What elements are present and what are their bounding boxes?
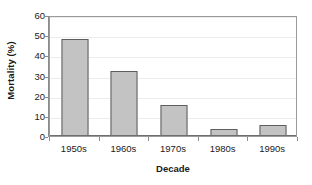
- y-axis-tick-label: 60: [20, 11, 45, 21]
- x-axis-tick-mark: [99, 137, 100, 141]
- x-axis-baseline: [50, 135, 296, 136]
- bar-slot: [149, 17, 199, 136]
- y-axis-title: Mortality (%): [0, 0, 20, 140]
- y-axis-tick-label: 0: [20, 132, 45, 142]
- x-axis-tick-mark: [148, 137, 149, 141]
- x-axis-tick-label: 1950s: [49, 143, 99, 154]
- x-axis-tick-label: 1960s: [99, 143, 149, 154]
- y-axis-tick-label: 40: [20, 51, 45, 61]
- y-axis-tick-mark: [44, 137, 48, 138]
- y-axis-tick-label: 20: [20, 92, 45, 102]
- y-axis-tick-mark: [44, 77, 48, 78]
- bar-1960s[interactable]: [111, 71, 138, 136]
- x-axis-tick-mark: [247, 137, 248, 141]
- x-axis-tick-label: 1980s: [198, 143, 248, 154]
- x-axis-tick-label: 1970s: [148, 143, 198, 154]
- x-axis-title: Decade: [49, 163, 297, 174]
- x-axis-tick-mark: [49, 137, 50, 141]
- y-axis-tick-mark: [44, 97, 48, 98]
- bar-slot: [199, 17, 249, 136]
- x-axis-tick-mark: [198, 137, 199, 141]
- bars-layer: [50, 17, 296, 136]
- y-axis-tick-label-group: 0102030405060: [20, 16, 45, 137]
- plot-area: [49, 16, 297, 137]
- y-axis-title-label: Mortality (%): [5, 41, 16, 99]
- bar-slot: [248, 17, 298, 136]
- x-axis-tick-label-group: 1950s1960s1970s1980s1990s: [49, 143, 297, 157]
- x-axis-tick-mark: [297, 137, 298, 141]
- bar-1950s[interactable]: [61, 39, 88, 136]
- bar-slot: [100, 17, 150, 136]
- y-axis-tick-label: 50: [20, 31, 45, 41]
- y-axis-tick-mark: [44, 16, 48, 17]
- y-axis-tick-mark: [44, 36, 48, 37]
- y-axis-tick-label: 10: [20, 112, 45, 122]
- x-axis-tick-label: 1990s: [247, 143, 297, 154]
- y-axis-tick-mark: [44, 56, 48, 57]
- y-axis-tick-label: 30: [20, 72, 45, 82]
- bar-1970s[interactable]: [160, 105, 187, 136]
- bar-slot: [50, 17, 100, 136]
- bar-chart-figure: Mortality (%) 0102030405060 1950s1960s19…: [0, 0, 312, 185]
- y-axis-tick-mark: [44, 117, 48, 118]
